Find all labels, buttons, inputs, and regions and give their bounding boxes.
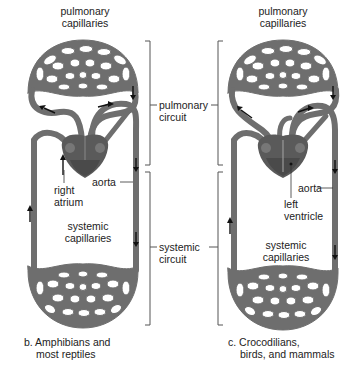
caption-b: b. Amphibians and most reptiles [24,336,110,360]
label-line: pulmonary [55,5,115,17]
label-systemic-circuit: systemic circuit [159,241,200,265]
label-pulmonary-capillaries-c: pulmonary capillaries [253,5,313,29]
label-line: right [54,184,83,196]
label-line: circuit [159,253,200,265]
label-systemic-capillaries-c: systemic capillaries [256,239,316,263]
circuit-brackets [145,41,223,325]
heart-b [62,135,108,179]
pulmonary-capillaries-c [228,40,338,96]
label-line: pulmonary [253,5,313,17]
caption-line: most reptiles [24,348,110,360]
label-aorta-b: aorta [92,176,116,188]
label-line: atrium [54,196,83,208]
systemic-bracket-b [145,172,150,325]
label-line: systemic [159,241,200,253]
pulmonary-capillaries-b [28,40,138,96]
label-line: systemic [58,220,118,232]
label-pulmonary-circuit: pulmonary circuit [159,99,208,123]
label-line: pulmonary [159,99,208,111]
label-aorta-c: aorta [298,182,322,194]
pulmonary-bracket-c [218,41,223,165]
systemic-capillaries-b [28,264,138,328]
label-line: capillaries [58,232,118,244]
caption-line: c. Crocodilians, [228,336,335,348]
label-pulmonary-capillaries-b: pulmonary capillaries [55,5,115,29]
label-line: capillaries [256,251,316,263]
systemic-capillaries-c [228,266,338,330]
label-line: systemic [256,239,316,251]
pulmonary-bracket-b [145,41,150,165]
caption-c: c. Crocodilians, birds, and mammals [228,336,335,360]
label-left-ventricle: left ventricle [284,198,323,222]
label-line: capillaries [55,17,115,29]
label-line: circuit [159,111,208,123]
label-systemic-capillaries-b: systemic capillaries [58,220,118,244]
label-line: capillaries [253,17,313,29]
heart-c [258,135,308,179]
systemic-bracket-c [218,172,223,325]
label-line: left [284,198,323,210]
label-right-atrium: right atrium [54,184,83,208]
caption-line: birds, and mammals [228,348,335,360]
caption-line: b. Amphibians and [24,336,110,348]
label-line: ventricle [284,210,323,222]
